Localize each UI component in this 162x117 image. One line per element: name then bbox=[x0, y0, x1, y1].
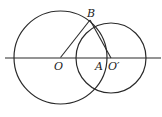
geometry-diagram: B O A O′ bbox=[0, 0, 162, 117]
segment-bo-prime bbox=[90, 20, 111, 58]
label-o-prime: O′ bbox=[108, 60, 120, 73]
label-o: O bbox=[54, 60, 63, 73]
label-b: B bbox=[86, 7, 95, 20]
label-a: A bbox=[94, 60, 103, 73]
segment-ob bbox=[61, 20, 91, 58]
